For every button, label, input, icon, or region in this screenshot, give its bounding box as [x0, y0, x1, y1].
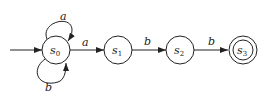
edge-s1-s2-label: b [144, 35, 151, 48]
state-s1: s1 [104, 36, 132, 64]
automaton-diagram: a b a b b s0 s1 s2 s3 [0, 0, 261, 99]
state-s3-accepting: s3 [229, 36, 257, 64]
edge-s0-s1-label: a [82, 36, 89, 49]
self-loop-b-label: b [45, 81, 52, 94]
state-s2: s2 [166, 36, 194, 64]
state-s0: s0 [42, 36, 70, 64]
edge-s2-s3-label: b [208, 35, 215, 48]
self-loop-a-label: a [60, 10, 67, 23]
